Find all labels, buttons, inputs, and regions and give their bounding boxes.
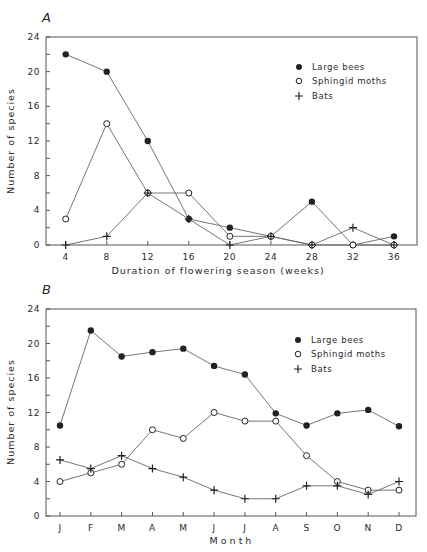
large-bees-point: [273, 410, 279, 416]
y-tick-label: 16: [28, 373, 40, 383]
large-bees-point: [104, 68, 110, 74]
y-tick-label: 12: [28, 136, 40, 146]
x-tick-label: O: [334, 523, 342, 533]
panel-a-y-axis-title: Number of species: [5, 88, 16, 194]
y-tick-label: 4: [34, 205, 40, 215]
bats-point: [185, 215, 193, 223]
large-bees-point: [227, 224, 233, 230]
panel-b-x-axis-title: Month: [210, 535, 255, 546]
bats-point: [395, 478, 403, 486]
sphingid-moths-point: [57, 479, 63, 485]
large-bees-point: [62, 51, 68, 57]
legend-sphingid-moths-icon: [296, 78, 302, 84]
sphingid-moths-point: [119, 461, 125, 467]
legend-sphingid-moths-label: Sphingid moths: [312, 76, 387, 86]
large-bees-point: [149, 349, 155, 355]
x-tick-label: 36: [388, 252, 400, 262]
x-tick-label: 16: [183, 252, 195, 262]
sphingid-moths-point: [227, 233, 233, 239]
x-tick-label: A: [272, 523, 279, 533]
figure: A 04812162024 4812162024283236 Number of…: [0, 0, 427, 552]
panel-a-label: A: [41, 10, 51, 25]
bats-point: [148, 465, 156, 473]
y-tick-label: 8: [34, 171, 40, 181]
y-tick-label: 24: [28, 304, 40, 314]
y-tick-label: 16: [28, 101, 40, 111]
bats-point: [303, 482, 311, 490]
sphingid-moths-point: [63, 216, 69, 222]
bats-point: [62, 241, 70, 249]
large-bees-point: [145, 138, 151, 144]
legend-sphingid-moths-label: Sphingid moths: [311, 349, 386, 359]
panel-b-y-axis-title: Number of species: [5, 359, 16, 465]
y-tick-label: 20: [28, 67, 40, 77]
x-tick-label: A: [149, 523, 156, 533]
sphingid-moths-point: [396, 487, 402, 493]
large-bees-point: [118, 353, 124, 359]
y-tick-label: 4: [34, 477, 40, 487]
x-tick-label: D: [395, 523, 402, 533]
sphingid-moths-point: [304, 453, 310, 459]
sphingid-moths-point: [149, 427, 155, 433]
legend-large-bees-icon: [295, 337, 301, 343]
large-bees-point: [57, 422, 63, 428]
panel-b-chart: B 04812162024 JFMAMJJASOND Number of spe…: [5, 282, 416, 546]
y-tick-label: 12: [28, 408, 40, 418]
y-tick-label: 8: [34, 442, 40, 452]
large-bees-point: [88, 327, 94, 333]
bats-point: [349, 224, 357, 232]
x-tick-label: N: [365, 523, 372, 533]
legend-large-bees-label: Large bees: [312, 62, 365, 72]
bats-point: [118, 452, 126, 460]
panel-b-legend: Large bees Sphingid moths Bats: [294, 335, 386, 374]
panel-a-chart: A 04812162024 4812162024283236 Number of…: [5, 10, 417, 276]
bats-point: [308, 241, 316, 249]
bats-point: [272, 495, 280, 503]
figure-canvas: A 04812162024 4812162024283236 Number of…: [0, 0, 427, 552]
x-tick-label: 4: [63, 252, 69, 262]
sphingid-moths-point: [242, 418, 248, 424]
legend-sphingid-moths-icon: [295, 351, 301, 357]
x-tick-label: 28: [306, 252, 318, 262]
x-tick-label: 32: [347, 252, 359, 262]
x-tick-label: J: [212, 523, 216, 533]
panel-a-x-axis-title: Duration of flowering season (weeks): [111, 265, 324, 276]
large-bees-point: [303, 422, 309, 428]
x-tick-label: M: [179, 523, 187, 533]
panel-b-label: B: [42, 282, 51, 297]
bats-point: [56, 456, 64, 464]
x-tick-label: 20: [224, 252, 236, 262]
sphingid-moths-point: [180, 435, 186, 441]
y-tick-label: 0: [34, 240, 40, 250]
x-tick-label: J: [242, 523, 246, 533]
large-bees-point: [365, 407, 371, 413]
x-tick-label: 8: [104, 252, 110, 262]
large-bees-point: [334, 410, 340, 416]
series-bats: [56, 452, 403, 503]
legend-large-bees-label: Large bees: [311, 335, 364, 345]
sphingid-moths-point: [211, 410, 217, 416]
x-tick-label: 24: [265, 252, 277, 262]
sphingid-moths-point: [104, 121, 110, 127]
x-tick-label: S: [303, 523, 309, 533]
sphingid-moths-point: [273, 418, 279, 424]
x-tick-label: 12: [142, 252, 154, 262]
panel-b-x-axis: JFMAMJJASOND: [57, 512, 402, 533]
x-tick-label: J: [57, 523, 61, 533]
y-tick-label: 24: [28, 32, 40, 42]
large-bees-point: [211, 363, 217, 369]
bats-point: [390, 241, 398, 249]
sphingid-moths-point: [186, 190, 192, 196]
legend-large-bees-icon: [296, 64, 302, 70]
large-bees-point: [180, 345, 186, 351]
sphingid-moths-point: [350, 242, 356, 248]
series-sphingid-moths: [57, 410, 402, 494]
y-tick-label: 0: [34, 511, 40, 521]
panel-b-y-axis: 04812162024: [28, 304, 50, 521]
y-tick-label: 20: [28, 339, 40, 349]
x-tick-label: M: [118, 523, 126, 533]
large-bees-point: [242, 371, 248, 377]
bats-point: [179, 473, 187, 481]
bats-point: [210, 486, 218, 494]
large-bees-point: [391, 233, 397, 239]
